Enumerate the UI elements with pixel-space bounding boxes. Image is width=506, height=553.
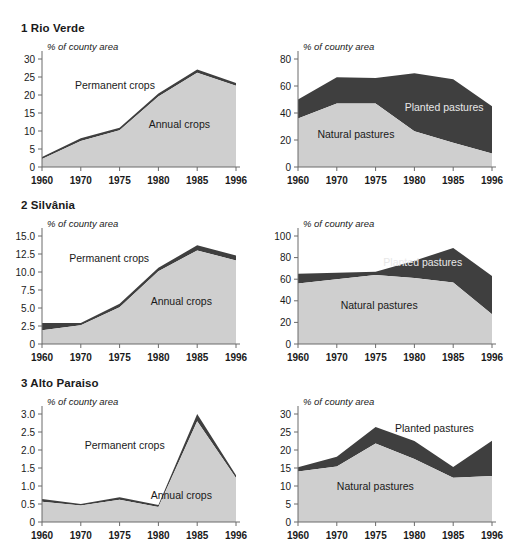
charts-row-alto-paraiso: 3.02.52.01.51.00.50196019701975198019851… xyxy=(0,392,502,552)
y-tick-label: 20 xyxy=(24,90,36,101)
y-tick-label: 15 xyxy=(280,463,292,474)
y-tick-label: 15.0 xyxy=(16,231,36,242)
x-tick-label: 1985 xyxy=(442,175,465,186)
x-tick-label: 1996 xyxy=(481,530,504,541)
y-tick-label: 10 xyxy=(24,126,36,137)
chart-wrap-silvania-pastures: 100806040200196019701975198019851996% of… xyxy=(264,214,506,374)
panel-alto-paraiso: 3 Alto Paraiso3.02.52.01.51.00.501960197… xyxy=(0,377,502,552)
series-label-upper: Permanent crops xyxy=(75,79,155,91)
x-tick-label: 1996 xyxy=(225,175,248,186)
x-tick-label: 1980 xyxy=(147,530,170,541)
charts-row-rio-verde: 302520151050196019701975198019851996% of… xyxy=(0,37,502,197)
x-tick-label: 1960 xyxy=(31,352,54,363)
panel-rio-verde: 1 Rio Verde30252015105019601970197519801… xyxy=(0,22,502,197)
y-tick-label: 0 xyxy=(285,162,291,173)
chart-rio-verde-pastures: 806040200196019701975198019851996% of co… xyxy=(264,37,506,197)
chart-wrap-alto-paraiso-crops: 3.02.52.01.51.00.50196019701975198019851… xyxy=(8,392,250,552)
x-tick-label: 1975 xyxy=(364,175,387,186)
y-tick-label: 80 xyxy=(280,54,292,65)
x-tick-label: 1996 xyxy=(481,352,504,363)
x-tick-label: 1980 xyxy=(403,352,426,363)
y-tick-label: 60 xyxy=(280,81,292,92)
y-tick-label: 80 xyxy=(280,252,292,263)
axis-title: % of county area xyxy=(47,218,118,229)
x-tick-label: 1975 xyxy=(108,352,131,363)
x-tick-label: 1985 xyxy=(186,352,209,363)
y-tick-label: 1.5 xyxy=(21,463,35,474)
series-label-upper: Permanent crops xyxy=(69,252,149,264)
axis-title: % of county area xyxy=(303,396,374,407)
x-tick-label: 1985 xyxy=(186,530,209,541)
y-tick-label: 5 xyxy=(285,499,291,510)
panel-title-alto-paraiso: 3 Alto Paraiso xyxy=(21,377,502,389)
y-tick-label: 12.5 xyxy=(16,249,36,260)
x-tick-label: 1970 xyxy=(70,352,93,363)
y-tick-label: 40 xyxy=(280,295,292,306)
x-tick-label: 1980 xyxy=(147,352,170,363)
series-label-lower: Annual crops xyxy=(151,295,212,307)
y-tick-label: 100 xyxy=(274,231,291,242)
x-tick-label: 1996 xyxy=(481,175,504,186)
x-tick-label: 1975 xyxy=(108,530,131,541)
x-tick-label: 1960 xyxy=(31,530,54,541)
chart-wrap-silvania-crops: 15.012.510.07.55.02.50196019701975198019… xyxy=(8,214,250,374)
y-tick-label: 5.0 xyxy=(21,303,35,314)
chart-wrap-rio-verde-pastures: 806040200196019701975198019851996% of co… xyxy=(264,37,506,197)
series-label-lower: Natural pastures xyxy=(317,128,394,140)
y-tick-label: 0.5 xyxy=(21,499,35,510)
y-tick-label: 10 xyxy=(280,481,292,492)
x-tick-label: 1980 xyxy=(403,530,426,541)
y-tick-label: 10.0 xyxy=(16,267,36,278)
chart-alto-paraiso-pastures: 302520151050196019701975198019851996% of… xyxy=(264,392,506,552)
y-tick-label: 30 xyxy=(280,409,292,420)
y-tick-label: 25 xyxy=(24,72,36,83)
axis-title: % of county area xyxy=(303,41,374,52)
x-tick-label: 1985 xyxy=(442,352,465,363)
x-tick-label: 1970 xyxy=(70,530,93,541)
y-tick-label: 20 xyxy=(280,445,292,456)
x-tick-label: 1985 xyxy=(186,175,209,186)
y-tick-label: 1.0 xyxy=(21,481,35,492)
y-tick-label: 3.0 xyxy=(21,409,35,420)
panel-title-rio-verde: 1 Rio Verde xyxy=(21,22,502,34)
series-label-upper: Permanent crops xyxy=(85,439,165,451)
chart-silvania-pastures: 100806040200196019701975198019851996% of… xyxy=(264,214,506,374)
y-tick-label: 0 xyxy=(29,517,35,528)
axis-title: % of county area xyxy=(47,396,118,407)
series-label-lower: Annual crops xyxy=(151,489,212,501)
area-lower-alto-paraiso-crops xyxy=(42,421,236,522)
chart-alto-paraiso-crops: 3.02.52.01.51.00.50196019701975198019851… xyxy=(8,392,250,552)
y-tick-label: 5 xyxy=(29,144,35,155)
x-tick-label: 1960 xyxy=(287,352,310,363)
x-tick-label: 1980 xyxy=(147,175,170,186)
y-tick-label: 40 xyxy=(280,108,292,119)
x-tick-label: 1960 xyxy=(31,175,54,186)
x-tick-label: 1996 xyxy=(225,530,248,541)
series-label-lower: Annual crops xyxy=(149,118,210,130)
axis-title: % of county area xyxy=(47,41,118,52)
y-tick-label: 15 xyxy=(24,108,36,119)
x-tick-label: 1960 xyxy=(287,530,310,541)
x-tick-label: 1975 xyxy=(108,175,131,186)
x-tick-label: 1970 xyxy=(326,352,349,363)
x-tick-label: 1980 xyxy=(403,175,426,186)
y-tick-label: 7.5 xyxy=(21,285,35,296)
series-label-upper: Planted pastures xyxy=(383,256,462,268)
series-label-upper: Planted pastures xyxy=(405,101,484,113)
y-tick-label: 20 xyxy=(280,135,292,146)
chart-silvania-crops: 15.012.510.07.55.02.50196019701975198019… xyxy=(8,214,250,374)
x-tick-label: 1970 xyxy=(326,175,349,186)
x-tick-label: 1960 xyxy=(287,175,310,186)
y-tick-label: 60 xyxy=(280,274,292,285)
y-tick-label: 0 xyxy=(29,162,35,173)
y-tick-label: 0 xyxy=(29,339,35,350)
x-tick-label: 1975 xyxy=(364,530,387,541)
x-tick-label: 1996 xyxy=(225,352,248,363)
x-tick-label: 1970 xyxy=(70,175,93,186)
x-tick-label: 1975 xyxy=(364,352,387,363)
series-label-lower: Natural pastures xyxy=(341,299,418,311)
y-tick-label: 2.5 xyxy=(21,427,35,438)
charts-row-silvania: 15.012.510.07.55.02.50196019701975198019… xyxy=(0,214,502,374)
y-tick-label: 25 xyxy=(280,427,292,438)
x-tick-label: 1985 xyxy=(442,530,465,541)
